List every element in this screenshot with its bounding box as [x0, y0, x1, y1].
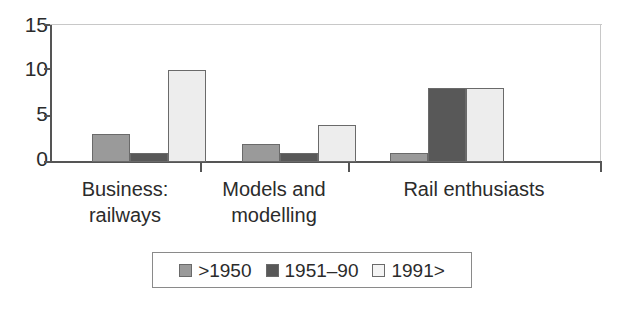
category-label-models-and-modelling: Models and modelling: [200, 176, 348, 228]
bar-0-2: [168, 70, 206, 162]
bar-1-2: [318, 125, 356, 162]
bar-1-1: [280, 153, 318, 162]
category-labels: Business: railways Models and modelling …: [50, 176, 602, 230]
y-tick-label-10: 10: [6, 58, 48, 79]
legend-label-1950: >1950: [198, 261, 251, 280]
bar-0-1: [130, 153, 168, 162]
category-label-line: Rail enthusiasts: [348, 176, 600, 202]
category-label-line: railways: [50, 202, 200, 228]
legend-item-1991: 1991>: [372, 261, 444, 280]
legend-item-1950: >1950: [179, 261, 251, 280]
category-label-rail-enthusiasts: Rail enthusiasts: [348, 176, 600, 202]
x-axis-divider-2: [348, 163, 350, 172]
bar-chart-figure: 15 10 5 0 Business: railways Models and …: [0, 0, 624, 309]
legend-swatch-1951-90-icon: [266, 264, 279, 277]
legend-label-1991: 1991>: [391, 261, 444, 280]
category-label-business-railways: Business: railways: [50, 176, 200, 228]
bar-1-0: [242, 144, 280, 162]
legend-item-1951-90: 1951–90: [266, 261, 359, 280]
category-label-line: modelling: [200, 202, 348, 228]
legend-label-1951-90: 1951–90: [285, 261, 359, 280]
legend-swatch-1950-icon: [179, 264, 192, 277]
category-label-line: Business:: [50, 176, 200, 202]
bars-layer: [50, 24, 602, 162]
legend-swatch-1991-icon: [372, 264, 385, 277]
y-tick-label-5: 5: [6, 103, 48, 124]
bar-0-0: [92, 134, 130, 162]
y-tick-label-15: 15: [6, 14, 48, 35]
category-label-line: Models and: [200, 176, 348, 202]
chart-legend: >1950 1951–90 1991>: [152, 252, 472, 288]
y-tick-label-0: 0: [6, 148, 48, 169]
bar-2-0: [390, 153, 428, 162]
x-axis-divider-1: [200, 163, 202, 172]
bar-2-2: [466, 88, 504, 162]
bar-2-1: [428, 88, 466, 162]
y-axis-labels: 15 10 5 0: [6, 0, 48, 170]
x-axis-divider-3: [600, 163, 602, 172]
